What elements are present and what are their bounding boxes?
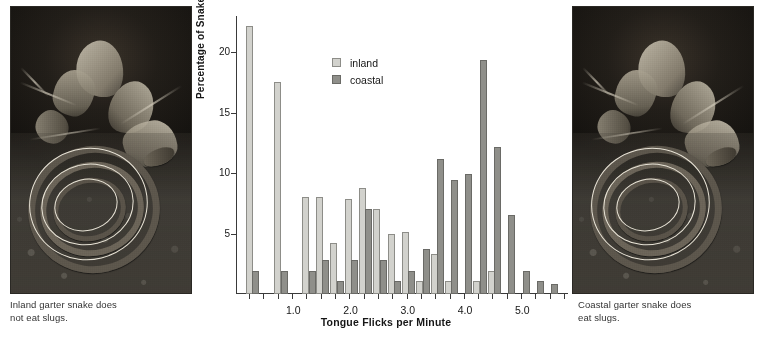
legend-label-coastal: coastal [350,74,383,86]
bar-coastal [494,147,501,294]
x-axis-tick [550,294,551,299]
left-caption-line-1: Inland garter snake does [10,299,188,312]
legend-label-inland: inland [350,57,378,69]
x-axis-tick-label: 3.0 [400,304,415,316]
bar-coastal [465,174,472,294]
x-axis-tick [335,294,336,299]
figure-page: Inland garter snake does not eat slugs. [0,0,764,344]
legend-item-coastal: coastal [332,71,383,88]
bar-coastal [408,271,415,294]
bar-inland [274,82,281,294]
x-axis-tick [249,294,250,299]
x-axis-tick [321,294,322,299]
plot-area: 51015201.02.03.04.05.0 [236,16,568,294]
x-axis-tick [407,294,408,299]
left-photo-panel [10,6,192,294]
y-axis-tick [231,52,236,53]
bar-coastal [252,271,259,294]
bar-coastal [451,180,458,294]
y-axis-tick [231,173,236,174]
x-axis-tick [478,294,479,299]
x-axis-tick-label: 5.0 [515,304,530,316]
bar-coastal [480,60,487,294]
bar-coastal [437,159,444,294]
right-photo-caption: Coastal garter snake does eat slugs. [578,299,756,324]
x-axis-tick [464,294,465,299]
y-axis-tick-label: 10 [202,167,230,178]
y-axis-tick-label: 5 [202,228,230,239]
legend-item-inland: inland [332,54,383,71]
left-photo-caption: Inland garter snake does not eat slugs. [10,299,188,324]
x-axis-tick [435,294,436,299]
x-axis-tick [450,294,451,299]
bar-coastal [394,281,401,294]
x-axis-tick [306,294,307,299]
y-axis-tick-label: 15 [202,107,230,118]
y-axis-line [236,16,237,294]
tongue-flicks-histogram: Percentage of Snakes 51015201.02.03.04.0… [196,4,576,340]
y-axis-tick [231,113,236,114]
x-axis-tick [278,294,279,299]
right-caption-line-2: eat slugs. [578,312,756,325]
bar-coastal [351,260,358,294]
coastal-garter-snake-photo [572,6,754,294]
x-axis-tick [521,294,522,299]
y-axis-tick-label: 20 [202,46,230,57]
x-axis-tick-label: 4.0 [458,304,473,316]
legend-swatch-inland-icon [332,58,341,67]
bar-coastal [380,260,387,294]
bar-coastal [537,281,544,294]
bar-coastal [523,271,530,294]
right-photo-panel [572,6,754,294]
bar-coastal [508,215,515,294]
left-caption-line-2: not eat slugs. [10,312,188,325]
legend-swatch-coastal-icon [332,75,341,84]
x-axis-tick [421,294,422,299]
bar-coastal [423,249,430,294]
bar-coastal [365,209,372,294]
bar-coastal [281,271,288,294]
x-axis-tick-label: 1.0 [286,304,301,316]
x-axis-tick [507,294,508,299]
x-axis-tick [564,294,565,299]
x-axis-tick [535,294,536,299]
y-axis-tick [231,234,236,235]
chart-legend: inland coastal [332,54,383,88]
coiled-snake [25,139,169,271]
x-axis-tick [349,294,350,299]
x-axis-tick [492,294,493,299]
right-caption-line-1: Coastal garter snake does [578,299,756,312]
x-axis-tick [378,294,379,299]
bar-coastal [322,260,329,294]
inland-garter-snake-photo [10,6,192,294]
coiled-snake [587,139,731,271]
bar-coastal [551,284,558,294]
x-axis-tick-label: 2.0 [343,304,358,316]
bar-inland [246,26,253,294]
x-axis-label: Tongue Flicks per Minute [196,316,576,328]
x-axis-tick [292,294,293,299]
x-axis-tick [364,294,365,299]
bar-coastal [309,271,316,294]
bar-coastal [337,281,344,294]
x-axis-tick [392,294,393,299]
x-axis-tick [263,294,264,299]
